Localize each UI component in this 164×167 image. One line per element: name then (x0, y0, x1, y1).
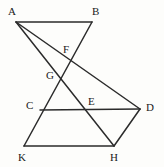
vertex-label-c: C (26, 100, 33, 111)
segment-cd (40, 109, 140, 110)
segment-ah (16, 22, 114, 146)
geometry-figure: A B F G C E D K H (0, 0, 164, 167)
vertex-label-b: B (92, 6, 99, 17)
figure-canvas (0, 0, 164, 167)
vertex-label-g: G (46, 70, 54, 81)
vertex-label-d: D (146, 102, 154, 113)
vertex-label-k: K (18, 152, 26, 163)
segment-ad (16, 22, 140, 109)
segment-dh (114, 109, 140, 146)
segment-group (16, 22, 140, 146)
vertex-label-e: E (88, 96, 95, 107)
vertex-label-h: H (110, 152, 118, 163)
vertex-label-a: A (8, 6, 16, 17)
vertex-label-f: F (63, 44, 69, 55)
segment-bk (24, 22, 92, 146)
